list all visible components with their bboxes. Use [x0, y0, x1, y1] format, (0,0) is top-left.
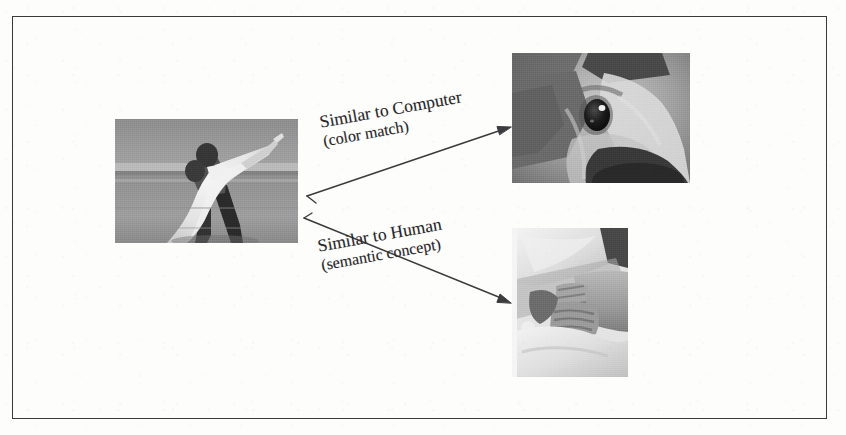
dog-face-closeup-photo [512, 53, 690, 183]
wedding-couple-beach-photo [115, 119, 298, 243]
figure-root: Similar to Computer (color match) Simila… [0, 0, 846, 435]
bride-hands-closeup-photo [512, 228, 628, 377]
